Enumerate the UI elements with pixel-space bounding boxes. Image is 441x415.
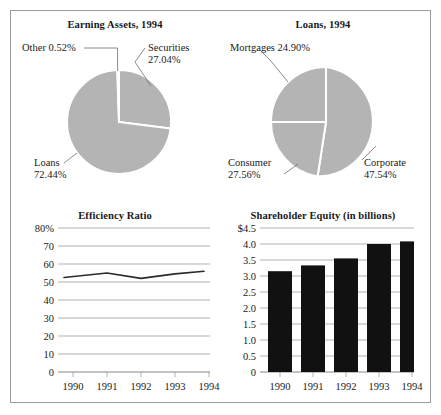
efficiency-ytick-labels: 80% 70 60 50 40 30 20 10 0: [35, 223, 55, 378]
equity-ytick-6: 1.5: [243, 319, 256, 330]
efficiency-xticks: [73, 372, 209, 377]
efficiency-xtick-1994: 1994: [199, 381, 221, 392]
equity-ytick-4: 2.5: [243, 287, 256, 298]
efficiency-ytick-1: 70: [44, 241, 55, 252]
efficiency-ytick-2: 60: [44, 259, 55, 270]
efficiency-ytick-7: 10: [44, 349, 55, 360]
efficiency-gridlines: [58, 228, 210, 372]
loans-pie-svg: [218, 14, 428, 204]
pie-slices: [67, 70, 171, 174]
equity-ytick-9: 0: [251, 367, 256, 378]
equity-ytick-8: 0.5: [243, 351, 256, 362]
bar-1994: [400, 241, 414, 372]
equity-ytick-1: 4.0: [243, 239, 256, 250]
efficiency-xtick-1993: 1993: [165, 381, 186, 392]
bar-1990: [268, 271, 292, 372]
pie-slices: [271, 67, 373, 176]
equity-xtick-1993: 1993: [369, 381, 390, 392]
efficiency-xtick-1991: 1991: [97, 381, 118, 392]
efficiency-ytick-6: 20: [44, 331, 55, 342]
efficiency-xtick-1992: 1992: [131, 381, 152, 392]
efficiency-ytick-4: 40: [44, 295, 55, 306]
equity-ytick-0: $4.5: [238, 223, 256, 234]
figure-root: Earning Assets, 1994 Other 0.52% Securit…: [0, 0, 441, 415]
leader-loans: [64, 153, 77, 163]
panel-earning-assets: Earning Assets, 1994 Other 0.52% Securit…: [14, 14, 216, 204]
equity-ytick-7: 1.0: [243, 335, 256, 346]
efficiency-ratio-line: [64, 271, 204, 278]
equity-ytick-3: 3.0: [243, 271, 256, 282]
equity-xtick-labels: 1990 1991 1992 1993 1994: [270, 381, 424, 392]
panel-efficiency: Efficiency Ratio 80% 70 60 50 40 30: [14, 206, 216, 400]
leader-mortgages: [260, 50, 288, 82]
bar-1992: [334, 258, 358, 372]
equity-ytick-5: 2.0: [243, 303, 256, 314]
pie-slice-securities: [119, 70, 171, 129]
bar-1993: [367, 244, 391, 372]
efficiency-ytick-5: 30: [44, 313, 55, 324]
pie-slice-consumer: [271, 122, 326, 177]
efficiency-xtick-labels: 1990 1991 1992 1993 1994: [63, 381, 221, 392]
panel-equity: Shareholder Equity (in billions) $4.5 4.…: [218, 206, 428, 400]
pie-slice-mortgages: [271, 67, 326, 122]
efficiency-chart-svg: 80% 70 60 50 40 30 20 10 0 1990 1991: [14, 206, 216, 400]
panel-loans: Loans, 1994 Mortgages 24.90% Consumer 27…: [218, 14, 428, 204]
equity-ytick-labels: $4.5 4.0 3.5 3.0 2.5 2.0 1.5 1.0 0.5 0: [238, 223, 256, 378]
efficiency-ytick-3: 50: [44, 277, 55, 288]
efficiency-ytick-8: 0: [49, 367, 54, 378]
equity-xtick-1992: 1992: [336, 381, 357, 392]
equity-chart-svg: $4.5 4.0 3.5 3.0 2.5 2.0 1.5 1.0 0.5 0: [218, 206, 428, 400]
equity-xtick-1994: 1994: [402, 381, 424, 392]
equity-ytick-2: 3.5: [243, 255, 256, 266]
equity-xtick-1990: 1990: [270, 381, 291, 392]
efficiency-xtick-1990: 1990: [63, 381, 84, 392]
equity-xticks: [280, 372, 412, 377]
earning-assets-pie-svg: [14, 14, 216, 204]
efficiency-ytick-0: 80%: [35, 223, 55, 234]
bar-1991: [301, 265, 325, 372]
equity-bars: [268, 241, 414, 372]
leader-other: [84, 48, 118, 71]
equity-xtick-1991: 1991: [303, 381, 324, 392]
